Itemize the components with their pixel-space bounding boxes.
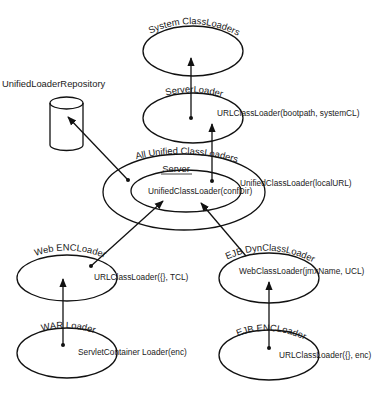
war-label: ServletContainer Loader(enc) (78, 347, 187, 357)
all-unified-label: UnifiedClassLoader(localURL) (240, 178, 352, 188)
node-ejb-enc-loader: EJB ENCLoader URLClassLoader({}, enc) (219, 322, 371, 380)
arrow-allunified-to-repository (68, 117, 128, 180)
all-unified-title: All Unified ClassLoaders (134, 145, 240, 165)
repository-cylinder-top (50, 97, 83, 109)
ejb-dyn-label: WebClassLoader(jmxName, UCL) (239, 266, 364, 276)
server-loader-title: ServerLoader (164, 83, 225, 99)
node-server-loader: ServerLoader URLClassLoader(bootpath, sy… (143, 83, 360, 143)
arrow-webenc-to-server (91, 201, 163, 266)
server-title: Server (162, 163, 190, 174)
node-web-enc-loader: Web ENCLoader URLClassLoader({}, TCL) (17, 241, 189, 301)
node-system-classloaders: System ClassLoaders (143, 15, 243, 76)
server-loader-label: URLClassLoader(bootpath, systemCL) (217, 108, 360, 118)
edges (63, 58, 269, 348)
node-war-loader: WAR Loader ServletContainer Loader(enc) (17, 319, 187, 378)
server-label: UnifiedClassLoader(confDir) (148, 186, 252, 196)
repository-title: UnifiedLoaderRepository (2, 78, 105, 89)
arrow-ejbdyn-to-server (201, 203, 246, 256)
ejb-enc-label: URLClassLoader({}, enc) (279, 350, 371, 360)
node-server: Server UnifiedClassLoader(confDir) (131, 163, 252, 212)
classloader-diagram: System ClassLoaders ServerLoader URLClas… (0, 0, 381, 397)
war-title: WAR Loader (40, 319, 97, 335)
web-enc-label: URLClassLoader({}, TCL) (94, 272, 189, 282)
ejb-enc-title: EJB ENCLoader (235, 322, 308, 342)
